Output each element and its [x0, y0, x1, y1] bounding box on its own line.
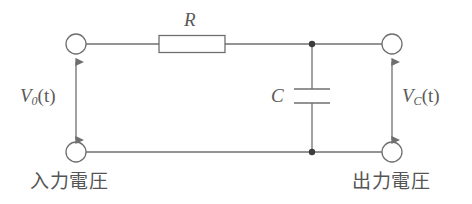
input-caption: 入力電圧: [30, 172, 108, 191]
terminal-input-top: [66, 34, 86, 54]
resistor-body: [159, 36, 225, 53]
resistor-label: R: [184, 10, 196, 29]
junction-dot-bottom: [309, 149, 315, 155]
terminal-input-bottom: [66, 142, 86, 162]
output-voltage-label: VC(t): [402, 86, 440, 107]
terminal-output-bottom: [382, 142, 402, 162]
output-voltage-base: V: [402, 85, 414, 106]
circuit-diagram: R C V0(t) VC(t) 入力電圧 出力電圧: [0, 0, 472, 204]
output-caption: 出力電圧: [352, 172, 430, 191]
capacitor-label: C: [271, 86, 284, 105]
junction-dot-top: [309, 41, 315, 47]
input-voltage-base: V: [20, 85, 32, 106]
output-voltage-argument: (t): [422, 85, 440, 106]
output-voltage-subscript: C: [414, 94, 422, 108]
input-voltage-label: V0(t): [20, 86, 56, 107]
terminal-output-top: [382, 34, 402, 54]
input-voltage-argument: (t): [38, 85, 56, 106]
